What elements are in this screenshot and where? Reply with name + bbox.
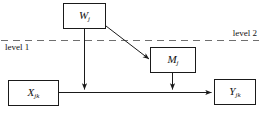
path-diagram: Wj Mj Xjk Yjk level 2 level 1 xyxy=(0,0,260,114)
node-w: Wj xyxy=(63,3,106,29)
node-m: Mj xyxy=(150,47,196,73)
node-x-subscript: jk xyxy=(34,91,39,99)
level-1-label: level 1 xyxy=(5,43,29,52)
node-x-label: Xjk xyxy=(28,87,40,100)
node-m-label: Mj xyxy=(167,54,178,67)
node-x: Xjk xyxy=(8,80,59,106)
node-y: Yjk xyxy=(214,79,256,105)
edge-w-to-m xyxy=(106,26,149,59)
node-y-label: Yjk xyxy=(229,86,240,99)
node-y-subscript: jk xyxy=(235,90,240,98)
node-w-subscript: j xyxy=(88,14,90,22)
node-w-label: Wj xyxy=(79,10,90,23)
level-2-label: level 2 xyxy=(233,29,257,38)
node-m-subscript: j xyxy=(177,58,179,66)
